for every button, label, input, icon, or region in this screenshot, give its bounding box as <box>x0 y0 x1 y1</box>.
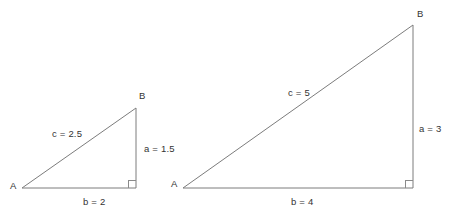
small-triangle-right-angle-icon <box>129 181 137 189</box>
small-triangle-vertex-a-label: A <box>10 180 17 191</box>
small-triangle-hypotenuse-label: c = 2.5 <box>52 128 82 139</box>
large-triangle-right-angle-icon <box>406 181 414 189</box>
large-triangle-base-leg-label: b = 4 <box>291 196 313 207</box>
large-triangle-hypotenuse-label: c = 5 <box>288 87 310 98</box>
small-triangle-base-leg-label: b = 2 <box>83 196 105 207</box>
large-triangle-vertical-leg-label: a = 3 <box>419 123 441 134</box>
large-triangle-vertex-b-label: B <box>417 8 424 19</box>
small-triangle-vertical-leg-label: a = 1.5 <box>144 143 175 154</box>
large-triangle-vertex-a-label: A <box>171 178 178 189</box>
small-triangle-vertex-b-label: B <box>139 90 146 101</box>
triangles-svg <box>0 0 449 223</box>
geometry-diagram: A B c = 2.5 a = 1.5 b = 2 A B c = 5 a = … <box>0 0 449 223</box>
large-triangle-hypotenuse <box>183 25 413 188</box>
large-triangle-group <box>183 25 413 188</box>
small-triangle-group <box>22 108 136 188</box>
small-triangle-hypotenuse <box>22 108 136 188</box>
